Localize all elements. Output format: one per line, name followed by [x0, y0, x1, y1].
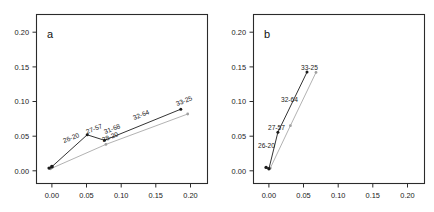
panel-b-ytick-label-3: 0.15 [232, 63, 246, 72]
figure-container: 0.00 0.05 0.10 0.15 0.20 0.00 0.05 0.10 … [0, 0, 434, 212]
panel-a-tag: a [47, 28, 54, 40]
panel-b-xtick-label-4: 0.20 [400, 191, 414, 200]
panel-a-xtick-label-3: 0.15 [149, 191, 163, 200]
panel-b-black-point [267, 167, 270, 170]
panel-a-ytick-label-2: 0.10 [15, 97, 29, 106]
panel-a-xtick-label-2: 0.10 [114, 191, 128, 200]
panel-a-plot: 0.00 0.05 0.10 0.15 0.20 0.00 0.05 0.10 … [0, 0, 217, 212]
panel-a-axes: 0.00 0.05 0.10 0.15 0.20 0.00 0.05 0.10 … [15, 15, 208, 201]
panel-a-ytick-label-1: 0.05 [15, 132, 29, 141]
panel-b-series-gray [269, 71, 318, 170]
panel-a-ytick-label-4: 0.20 [15, 28, 29, 37]
panel-b-ytick-label-4: 0.20 [232, 28, 246, 37]
panel-b-gray-line [270, 72, 316, 168]
panel-b-axes: 0.00 0.05 0.10 0.15 0.20 0.00 0.05 0.10 … [232, 15, 425, 201]
panel-b-label-27-57: 27-57 [268, 124, 285, 131]
panel-b-xtick-label-3: 0.15 [366, 191, 380, 200]
panel-a-gray-point [186, 113, 189, 116]
panel-b-black-line [266, 72, 307, 169]
panel-b-label-33-25: 33-25 [301, 64, 318, 71]
panel-a-label-33-25: 33-25 [175, 94, 194, 107]
panel-b: 0.00 0.05 0.10 0.15 0.20 0.00 0.05 0.10 … [217, 0, 434, 212]
panel-a-label-27-57: 27-57 [85, 122, 104, 135]
panel-a-gray-point [105, 143, 108, 146]
panel-a-gray-line [51, 114, 188, 169]
panel-a-ytick-label-0: 0.00 [15, 167, 29, 176]
panel-a-black-point [50, 165, 54, 169]
panel-b-gray-point [315, 71, 318, 74]
panel-b-black-point [276, 131, 279, 134]
panel-a-xtick-label-4: 0.20 [183, 191, 197, 200]
panel-b-series-black [264, 71, 308, 171]
panel-b-ytick-label-2: 0.10 [232, 97, 246, 106]
panel-a-xtick-label-0: 0.00 [45, 191, 59, 200]
panel-b-ytick-label-0: 0.00 [232, 167, 246, 176]
panel-b-ytick-label-1: 0.05 [232, 132, 246, 141]
panel-a-black-point [179, 108, 182, 111]
panel-b-plot: 0.00 0.05 0.10 0.15 0.20 0.00 0.05 0.10 … [217, 0, 434, 212]
panel-b-label-26-20: 26-20 [258, 142, 275, 149]
panel-b-xtick-label-2: 0.10 [331, 191, 345, 200]
panel-b-xtick-label-1: 0.05 [296, 191, 310, 200]
panel-b-frame [254, 15, 425, 184]
panel-b-xtick-label-0: 0.00 [262, 191, 276, 200]
panel-a-label-26-20: 26-20 [62, 131, 81, 144]
panel-b-point-labels: 26-20 27-57 32-64 33-25 [258, 64, 318, 149]
panel-a-xtick-label-1: 0.05 [79, 191, 93, 200]
panel-a-label-32-64: 32-64 [132, 108, 151, 121]
panel-b-tag: b [264, 28, 270, 40]
panel-b-label-32-64: 32-64 [281, 96, 298, 103]
panel-b-black-point [306, 71, 309, 74]
panel-a: 0.00 0.05 0.10 0.15 0.20 0.00 0.05 0.10 … [0, 0, 217, 212]
panel-a-ytick-label-3: 0.15 [15, 63, 29, 72]
panel-b-gray-point [289, 124, 292, 127]
